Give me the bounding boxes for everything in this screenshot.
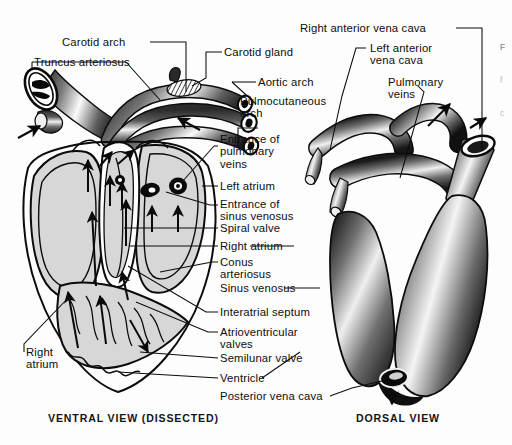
label-truncus-arteriosus: Truncus arteriosus bbox=[34, 56, 130, 68]
label-entrance-of-pulmonary-veins: Entrance of pulmonary veins bbox=[220, 133, 279, 170]
dorsal-right-lobe bbox=[395, 195, 488, 396]
edge-caption-line2: f bbox=[500, 75, 509, 86]
label-pulmonary-veins: Pulmonary veins bbox=[388, 76, 443, 101]
label-interatrial-septum: Interatrial septum bbox=[220, 306, 310, 318]
figure-canvas: Carotid arch Truncus arteriosus Carotid … bbox=[0, 0, 512, 445]
inflow-arrow-left bbox=[18, 126, 40, 138]
label-entrance-of-sinus-venosus: Entrance of sinus venosus bbox=[220, 198, 294, 223]
label-right-atrium-left: Right atrium bbox=[26, 346, 58, 371]
label-spiral-valve: Spiral valve bbox=[220, 222, 280, 234]
caption-ventral-view: VENTRAL VIEW (DISSECTED) bbox=[48, 412, 219, 424]
label-right-anterior-vena-cava: Right anterior vena cava bbox=[300, 22, 426, 34]
label-semilunar-valve: Semilunar valve bbox=[220, 352, 303, 364]
ventricle-chamber bbox=[57, 283, 188, 376]
label-carotid-gland: Carotid gland bbox=[224, 46, 293, 58]
dorsal-view-illustration bbox=[304, 104, 497, 406]
label-posterior-vena-cava: Posterior vena cava bbox=[220, 390, 323, 402]
label-carotid-arch: Carotid arch bbox=[62, 36, 125, 48]
caption-dorsal-view: DORSAL VIEW bbox=[356, 412, 440, 424]
label-aortic-arch: Aortic arch bbox=[258, 76, 314, 88]
label-conus-arteriosus: Conus arteriosus bbox=[220, 256, 271, 281]
dorsal-left-lobe bbox=[330, 212, 395, 387]
label-sinus-venosus: Sinus venosus bbox=[220, 282, 295, 294]
label-ventricle: Ventricle bbox=[220, 372, 265, 384]
edge-caption-line3: c bbox=[500, 108, 509, 119]
label-pulmocutaneous-arch: Pulmocutaneous arch bbox=[240, 95, 326, 120]
edge-caption-line1: F bbox=[500, 43, 505, 52]
label-atrioventricular-valves: Atrioventricular valves bbox=[220, 326, 298, 351]
label-left-atrium: Left atrium bbox=[220, 180, 275, 192]
label-left-anterior-vena-cava: Left anterior vena cava bbox=[370, 42, 432, 67]
truncus-branch-stub bbox=[35, 110, 63, 133]
label-right-atrium-middle: Right atrium bbox=[220, 240, 283, 252]
dorsal-inflow-arrow bbox=[470, 118, 486, 128]
edge-figure-caption: F f c bbox=[500, 20, 509, 141]
